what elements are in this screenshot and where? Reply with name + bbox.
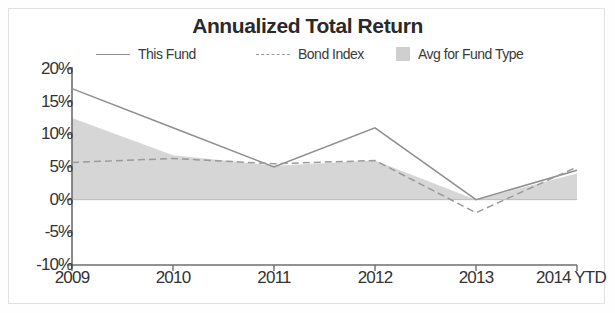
x-tick-label: 2009	[55, 268, 90, 288]
x-tick-label: 2014 YTD	[536, 268, 606, 288]
x-axis-labels: 200920102011201220132014 YTD	[0, 268, 615, 298]
y-tick-label: -5%	[45, 222, 72, 242]
area-series-avg-for-fund-type	[72, 118, 577, 200]
chart-frame: Annualized Total Return This Fund Bond I…	[0, 0, 615, 313]
chart-canvas	[0, 0, 615, 313]
x-tick-label: 2013	[459, 268, 494, 288]
y-tick-label: 15%	[41, 92, 72, 112]
y-tick-label: 10%	[41, 124, 72, 144]
y-tick-label: 5%	[49, 157, 72, 177]
x-tick-label: 2010	[156, 268, 191, 288]
x-tick-label: 2012	[358, 268, 393, 288]
y-tick-label: 0%	[49, 190, 72, 210]
x-tick-label: 2011	[257, 268, 290, 288]
y-tick-label: 20%	[41, 59, 72, 79]
plot-area	[0, 0, 615, 313]
y-axis-labels: 20%15%10%5%0%-5%-10%	[16, 58, 72, 273]
